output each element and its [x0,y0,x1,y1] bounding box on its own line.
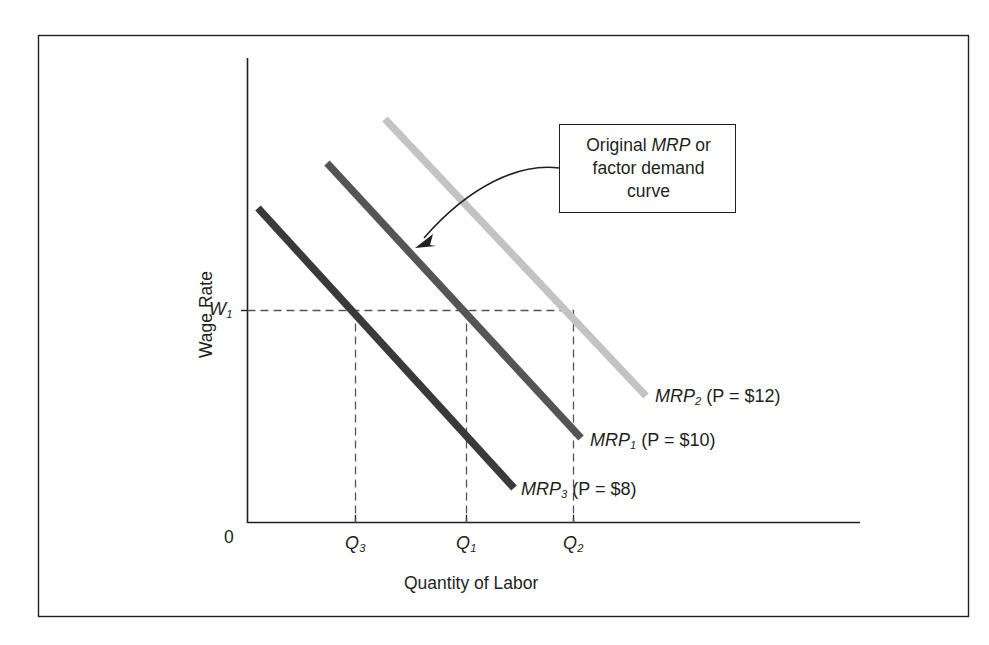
callout-box: Original MRP orfactor demandcurve [559,124,736,213]
y-tick-label-w1-sub: 1 [226,308,232,320]
x-tick-label-q3-text: Q [345,533,359,553]
figure-border [39,36,969,617]
curve-label-mrp1: MRP1 (P = $10) [590,430,715,452]
curve-label-mrp2-sub: 2 [695,395,701,407]
y-tick-label-w1: W1 [209,299,232,321]
curve-label-mrp3-name: MRP [521,479,561,499]
x-axis-title: Quantity of Labor [404,573,538,594]
x-tick-label-q1-sub: 1 [470,542,476,554]
callout-line1-suffix: or [690,135,710,155]
x-tick-label-q1-text: Q [456,533,470,553]
x-tick-label-q3-sub: 3 [359,542,365,554]
x-tick-label-q1: Q1 [456,533,476,555]
callout-text: Original MRP orfactor demandcurve [560,134,737,203]
x-tick-label-q3: Q3 [345,533,365,555]
y-tick-label-w1-text: W [209,299,226,319]
economics-figure [0,0,989,645]
x-tick-label-q2: Q2 [563,533,583,555]
curve-label-mrp3-price: (P = $8) [567,479,636,499]
curve-label-mrp3-sub: 3 [561,488,567,500]
curve-label-mrp3: MRP3 (P = $8) [521,479,636,501]
curve-label-mrp1-sub: 1 [630,439,636,451]
curve-label-mrp1-price: (P = $10) [636,430,715,450]
curve-label-mrp1-name: MRP [590,430,630,450]
callout-line3: curve [627,181,670,201]
callout-line2: factor demand [593,158,705,178]
curve-label-mrp2-price: (P = $12) [701,386,780,406]
figure-container: Wage Rate W1 0 Q3 Q1 Q2 Quantity of Labo… [0,0,989,645]
curve-label-mrp2: MRP2 (P = $12) [655,386,780,408]
callout-line1-italic: MRP [651,135,690,155]
callout-line1-prefix: Original [586,135,651,155]
x-tick-label-q2-sub: 2 [577,542,583,554]
x-tick-label-q2-text: Q [563,533,577,553]
origin-label: 0 [224,527,234,548]
curve-label-mrp2-name: MRP [655,386,695,406]
